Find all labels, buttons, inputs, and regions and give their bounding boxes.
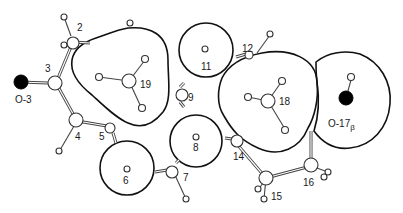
atom-c19-h2 (142, 56, 149, 63)
atom-c19-h1 (96, 74, 103, 81)
label-c7: 7 (183, 172, 189, 183)
skeleton-bonds (20, 42, 311, 178)
label-c16: 16 (303, 177, 315, 188)
atom-c18-h1 (245, 94, 252, 101)
atom-c8-h (193, 134, 199, 140)
atom-c3 (48, 76, 62, 90)
atom-o3 (14, 75, 28, 89)
atom-c16 (304, 158, 318, 172)
atom-c15-h (255, 186, 261, 192)
atom-c11-h (202, 46, 208, 52)
atom-c2 (67, 37, 79, 49)
atom-c18-h2 (279, 78, 286, 85)
atom-c15 (259, 171, 273, 185)
atom-c5 (105, 123, 115, 133)
label-c9: 9 (188, 92, 194, 103)
label-c5: 5 (99, 131, 105, 142)
label-c2: 2 (77, 22, 83, 33)
atom-o17 (339, 91, 353, 105)
atom-c7-h (183, 196, 189, 202)
atom-c2-h (61, 14, 67, 20)
label-o17: O-17β (328, 118, 355, 132)
atom-c18-h3 (282, 127, 289, 134)
label-c15: 15 (271, 191, 283, 202)
label-c12: 12 (242, 43, 254, 54)
label-c8: 8 (193, 142, 199, 153)
label-c14: 14 (233, 151, 245, 162)
atom-c12-h (267, 31, 273, 37)
atom-c7 (166, 166, 178, 178)
label-c6: 6 (123, 175, 129, 186)
label-o3: O-3 (15, 94, 32, 105)
atom-c18 (261, 94, 275, 108)
atom-c4-h (56, 148, 62, 154)
atom-o17-h (348, 74, 355, 81)
label-c19: 19 (140, 79, 152, 90)
atom-c2-h2 (61, 42, 67, 48)
label-c3: 3 (45, 63, 51, 74)
label-c18: 18 (279, 96, 291, 107)
atom-c4 (69, 113, 83, 127)
atom-c14 (231, 135, 243, 147)
atom-c15-h2 (261, 196, 267, 202)
atom-c16-h2 (321, 174, 327, 180)
atom-c19 (122, 74, 136, 88)
atom-c9 (176, 89, 188, 101)
molecule-diagram: 2 3 O-3 4 5 6 7 8 9 11 12 14 15 16 18 19… (0, 0, 403, 213)
label-c11: 11 (201, 61, 212, 72)
atom-c19-h3 (139, 105, 146, 112)
label-c4: 4 (75, 131, 81, 142)
hydrogen-bonds (60, 17, 351, 199)
atom-c6-h (124, 166, 130, 172)
atom-c19-top-h (127, 20, 133, 26)
